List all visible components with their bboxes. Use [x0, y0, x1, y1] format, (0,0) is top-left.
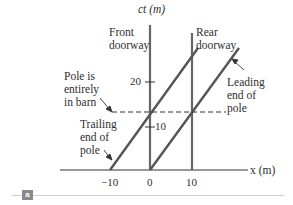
- x-tick-label-10: 10: [186, 176, 197, 188]
- y-axis-label: ct (m): [138, 3, 165, 16]
- x-tick-label-neg10: −10: [101, 176, 118, 188]
- y-tick-label-20: 20: [130, 75, 141, 87]
- trailing-end-label: Trailing end of pole: [80, 118, 117, 157]
- x-axis-label: x (m): [250, 164, 275, 177]
- y-tick-label-10: 10: [155, 120, 166, 132]
- leading-end-label: Leading end of pole: [227, 76, 265, 115]
- x-tick-label-0: 0: [147, 176, 153, 188]
- leading-end-worldline: [150, 48, 239, 170]
- pole-in-barn-label: Pole is entirely in barn: [64, 70, 99, 109]
- panel-label-badge: a: [22, 190, 33, 200]
- rear-doorway-label: Rear doorway: [196, 26, 236, 52]
- panel-divider: [12, 195, 284, 196]
- annotation-arrows: [100, 59, 244, 160]
- trailing-end-worldline: [110, 48, 198, 170]
- front-doorway-label: Front doorway: [109, 26, 149, 52]
